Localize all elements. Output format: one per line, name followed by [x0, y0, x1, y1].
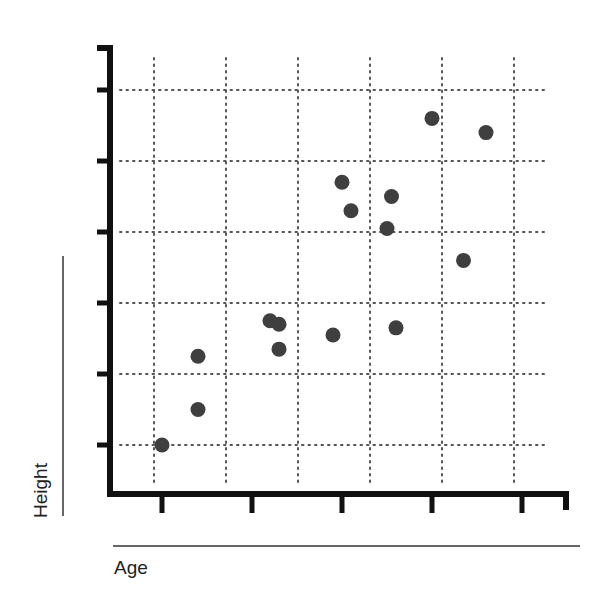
- data-point: [335, 175, 350, 190]
- data-point: [326, 327, 341, 342]
- x-axis-label: Age: [114, 557, 148, 579]
- grid-lines: [120, 58, 545, 485]
- scatter-plot: [0, 0, 609, 610]
- data-point: [380, 221, 395, 236]
- data-point: [344, 203, 359, 218]
- y-axis-label: Height: [30, 463, 52, 518]
- data-point: [384, 189, 399, 204]
- data-point: [272, 317, 287, 332]
- data-point: [425, 111, 440, 126]
- data-point: [272, 342, 287, 357]
- data-point: [389, 320, 404, 335]
- data-point: [456, 253, 471, 268]
- data-point: [191, 402, 206, 417]
- data-point: [155, 438, 170, 453]
- axis-label-rules: [63, 256, 580, 546]
- data-point: [191, 349, 206, 364]
- data-point: [479, 125, 494, 140]
